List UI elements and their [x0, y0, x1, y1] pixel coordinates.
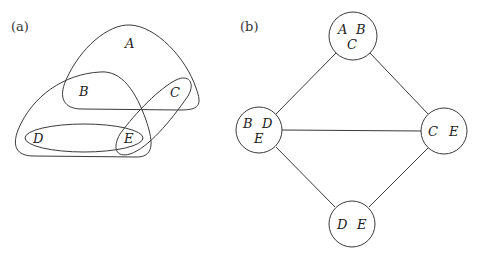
panel-b-label: (b)	[240, 19, 258, 34]
node-bde: B D E	[236, 107, 282, 153]
node-abc-label-b: B	[355, 22, 366, 37]
node-abc: A B C	[329, 12, 377, 60]
node-de-label-e: E	[356, 217, 367, 232]
edge-abc-bde	[276, 53, 336, 114]
node-ce-label-e: E	[448, 124, 459, 139]
panel-a-label: (a)	[11, 19, 29, 34]
panel-b: (b) A B C B D E C E D	[236, 12, 467, 247]
edge-abc-ce	[370, 53, 428, 114]
vertex-d-label: D	[32, 131, 44, 146]
node-bde-label-e: E	[253, 131, 264, 146]
vertex-c-label: C	[170, 85, 180, 100]
edge-ce-de	[369, 148, 428, 207]
node-de-label-d: D	[336, 217, 348, 232]
diagram-canvas: (a) A B C D E (b) A B C B	[0, 0, 479, 262]
vertex-b-label: B	[78, 84, 89, 99]
node-de: D E	[329, 201, 375, 247]
node-abc-label-a: A	[337, 22, 347, 37]
node-ce-label-c: C	[428, 124, 438, 139]
node-abc-label-c: C	[347, 37, 357, 52]
edge-bde-ce	[282, 130, 421, 131]
node-bde-label-b: B	[242, 116, 253, 131]
edge-bde-de	[276, 147, 335, 207]
vertex-e-label: E	[123, 131, 134, 146]
vertex-a-label: A	[124, 36, 134, 51]
panel-a: (a) A B C D E	[11, 19, 199, 157]
node-ce: C E	[421, 108, 467, 154]
node-bde-label-d: D	[261, 116, 273, 131]
